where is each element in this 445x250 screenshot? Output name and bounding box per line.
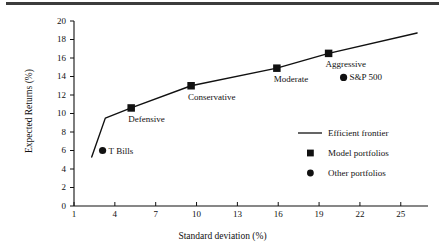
y-tick-label: 4 (50, 165, 66, 174)
y-tick-label: 20 (50, 17, 66, 26)
x-tick-label: 13 (229, 210, 245, 219)
legend-circle-swatch (307, 170, 314, 177)
y-tick-label: 2 (50, 183, 66, 192)
x-tick-label: 1 (66, 210, 82, 219)
y-tick-label: 0 (50, 202, 66, 211)
efficient-frontier-line (92, 33, 417, 157)
point-label: Defensive (128, 114, 164, 124)
legend-item-label: Efficient frontier (328, 128, 389, 138)
legend-square-swatch (307, 150, 314, 157)
point-label: S&P 500 (350, 72, 382, 82)
model-portfolio-marker (273, 64, 281, 72)
y-tick-label: 6 (50, 146, 66, 155)
x-tick-label: 4 (107, 210, 123, 219)
point-label: Aggressive (326, 59, 367, 69)
y-tick-label: 18 (50, 35, 66, 44)
y-tick-label: 8 (50, 128, 66, 137)
point-label: T Bills (109, 146, 134, 156)
model-portfolio-marker (325, 50, 333, 58)
legend-item-label: Model portfolios (328, 148, 389, 158)
y-axis-title: Expected Returns (%) (24, 36, 34, 186)
x-tick-label: 7 (148, 210, 164, 219)
x-axis-title: Standard deviation (%) (0, 231, 445, 241)
chart-axes (70, 21, 428, 206)
model-portfolio-marker (127, 104, 135, 112)
chart-series (92, 33, 417, 157)
y-tick-label: 10 (50, 109, 66, 118)
point-label: Conservative (188, 92, 236, 102)
x-tick-label: 16 (270, 210, 286, 219)
model-portfolio-marker (187, 82, 195, 90)
x-tick-label: 22 (352, 210, 368, 219)
x-tick-label: 10 (189, 210, 205, 219)
x-tick-label: 19 (311, 210, 327, 219)
other-portfolio-marker (340, 74, 347, 81)
other-portfolio-marker (99, 147, 106, 154)
y-tick-label: 12 (50, 91, 66, 100)
efficient-frontier-chart: 02468101214161820 147101316192225 Defens… (0, 0, 445, 250)
x-tick-label: 25 (393, 210, 409, 219)
point-label: Moderate (274, 74, 308, 84)
y-tick-label: 16 (50, 54, 66, 63)
legend-item-label: Other portfolios (328, 168, 386, 178)
y-tick-label: 14 (50, 72, 66, 81)
legend-markers (298, 133, 322, 176)
